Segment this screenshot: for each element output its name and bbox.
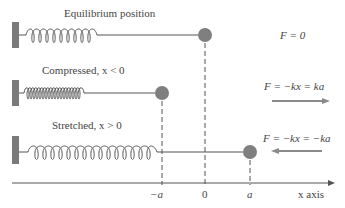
force-equation-equilibrium: F = 0 [280, 29, 305, 41]
equilibrium-row [12, 22, 212, 48]
wall-icon [12, 80, 19, 106]
x-axis-arrowhead-icon [328, 180, 335, 186]
wall-icon [12, 22, 19, 48]
caption-compressed: Compressed, x < 0 [42, 64, 125, 76]
mass-icon [243, 145, 257, 159]
force-equation-compressed: F = −kx = ka [264, 80, 324, 92]
spring-icon [19, 29, 126, 43]
caption-stretched: Stretched, x > 0 [52, 119, 122, 131]
spring-icon [19, 146, 162, 160]
spring-diagram: Equilibrium position Compressed, x < 0 S… [0, 0, 345, 208]
force-equation-stretched: F = −kx = −ka [263, 132, 331, 144]
mass-icon [198, 28, 212, 42]
tick-minus-a: −a [150, 188, 163, 200]
tick-zero: 0 [202, 188, 208, 200]
spring-icon [19, 88, 88, 99]
arrowhead-icon [271, 148, 279, 154]
wall-icon [12, 136, 19, 164]
tick-plus-a: a [247, 188, 253, 200]
caption-equilibrium: Equilibrium position [64, 7, 155, 19]
arrowhead-icon [322, 98, 330, 104]
mass-icon [155, 86, 169, 100]
x-axis-label: x axis [298, 188, 324, 200]
